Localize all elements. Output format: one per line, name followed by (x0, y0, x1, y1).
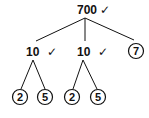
node-2-a-circled: 2 (13, 90, 28, 105)
node-value: 7 (133, 45, 139, 57)
branch-10-left-to-2 (21, 60, 33, 89)
check-mark-icon: ✓ (98, 45, 108, 59)
root-branches (36, 18, 134, 41)
node-value: 2 (17, 91, 23, 103)
branch-root-to-7 (85, 18, 134, 40)
node-5-a-circled: 5 (38, 90, 53, 105)
node-value: 10 (77, 45, 91, 59)
check-mark-icon: ✓ (100, 3, 110, 17)
branch-10-middle-to-5 (83, 60, 97, 89)
check-mark-icon: ✓ (47, 45, 57, 59)
node-2-b-circled: 2 (65, 90, 80, 105)
factor-tree-diagram: 700 ✓ 10 ✓ 10 ✓ 7 2 5 2 (0, 0, 149, 118)
node-10-left: 10 ✓ (26, 45, 57, 59)
node-value: 5 (42, 91, 48, 103)
node-5-b-circled: 5 (91, 90, 106, 105)
root-value: 700 (77, 3, 97, 17)
branch-root-to-10-left (36, 18, 85, 41)
node-value: 2 (69, 91, 75, 103)
node-value: 10 (26, 45, 40, 59)
branch-10-middle-to-2 (73, 60, 83, 89)
node-10-middle: 10 ✓ (77, 45, 108, 59)
node-7-circled: 7 (129, 44, 144, 59)
root-node: 700 ✓ (77, 3, 110, 17)
level1-branches (21, 60, 97, 89)
branch-10-left-to-5 (33, 60, 45, 89)
node-value: 5 (95, 91, 101, 103)
